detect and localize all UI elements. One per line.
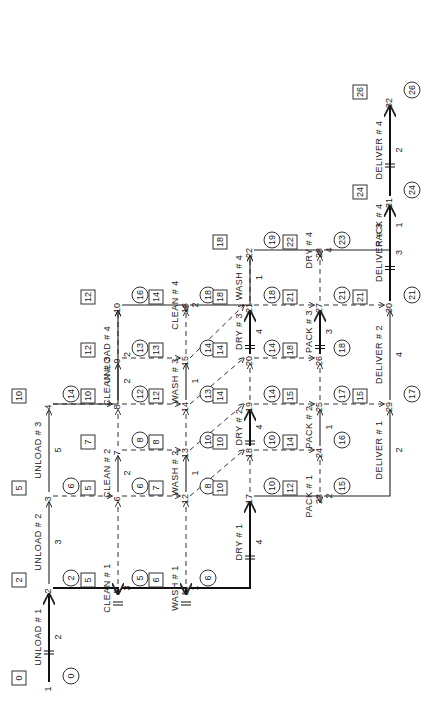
early-start-value: 2: [14, 577, 24, 582]
late-finish-value: 21: [407, 290, 417, 300]
activity-duration: 1: [394, 222, 404, 227]
early-start-value: 14: [215, 391, 225, 401]
late-finish-value: 5: [135, 575, 145, 580]
late-finish-value: 23: [337, 235, 347, 245]
late-finish-value: 14: [66, 389, 76, 399]
network-diagram: UNLOAD # 12UNLOAD # 23UNLOAD # 35UNLOAD …: [0, 0, 437, 704]
late-finish-value: 10: [203, 435, 213, 445]
late-finish-value: 15: [337, 481, 347, 491]
activity-label: DRY # 1: [234, 523, 244, 560]
late-finish-value: 8: [135, 437, 145, 442]
node-number: 6: [112, 496, 122, 501]
early-start-value: 18: [215, 237, 225, 247]
early-start-value: 13: [151, 345, 161, 355]
late-finish-value: 13: [203, 389, 213, 399]
late-finish-value: 6: [203, 575, 213, 580]
activity-label: DELIVER # 4: [374, 120, 384, 179]
node-number: 17: [244, 494, 254, 504]
activity-label: UNLOAD # 2: [33, 513, 43, 571]
late-finish-value: 6: [135, 483, 145, 488]
node-number: 25: [314, 402, 324, 412]
late-finish-value: 21: [337, 290, 347, 300]
node-number: 10: [112, 303, 122, 313]
late-finish-value: 14: [203, 343, 213, 353]
early-start-value: 12: [83, 345, 93, 355]
node-number: 30: [384, 303, 394, 313]
activity-label: CLEAN # 2: [102, 448, 112, 498]
late-finish-value: 16: [337, 435, 347, 445]
activity-duration: 5: [53, 447, 63, 452]
node-number: 8: [112, 404, 122, 409]
early-start-value: 5: [83, 577, 93, 582]
activity-duration: 2: [122, 470, 132, 475]
activity-label: CLEAN # 3: [102, 356, 112, 406]
node-number: 4: [43, 404, 53, 409]
early-start-value: 5: [83, 485, 93, 490]
activity-label: PACK # 2: [304, 406, 314, 449]
node-number: 29: [384, 402, 394, 412]
late-finish-value: 14: [267, 343, 277, 353]
early-start-value: 12: [285, 483, 295, 493]
early-start-value: 14: [285, 437, 295, 447]
node-number: 7: [112, 450, 122, 455]
activity-duration: 2: [122, 378, 132, 383]
early-start-value: 14: [215, 345, 225, 355]
early-start-value: 12: [83, 292, 93, 302]
activity-duration: 1: [190, 470, 200, 475]
activity-label: WASH # 4: [234, 255, 244, 301]
early-start-value: 14: [151, 292, 161, 302]
activity-duration: 4: [254, 329, 264, 334]
early-start-value: 22: [285, 237, 295, 247]
node-number: 14: [180, 402, 190, 412]
activity-duration: 3: [394, 250, 404, 255]
node-number: 5: [112, 588, 122, 593]
late-finish-value: 10: [267, 435, 277, 445]
node-number: 18: [244, 448, 254, 458]
early-start-value: 10: [215, 483, 225, 493]
late-finish-value: 17: [407, 389, 417, 399]
activity-duration: 1: [254, 275, 264, 280]
late-finish-value: 12: [135, 389, 145, 399]
late-finish-value: 16: [135, 290, 145, 300]
activity-label: WASH # 3: [170, 358, 180, 404]
activity-label: WASH # 2: [170, 450, 180, 496]
node-number: 21: [244, 303, 254, 313]
activity-label: DRY # 4: [304, 231, 314, 268]
activity-label: DELIVER # 2: [374, 325, 384, 384]
early-start-value: 5: [14, 485, 24, 490]
late-finish-value: 0: [66, 673, 76, 678]
activity-duration: 4: [254, 539, 264, 544]
activity-label: UNLOAD # 1: [33, 608, 43, 666]
late-finish-value: 6: [66, 483, 76, 488]
node-number: 32: [384, 98, 394, 108]
early-start-value: 24: [355, 187, 365, 197]
early-start-value: 7: [83, 439, 93, 444]
node-number: 26: [314, 356, 324, 366]
node-number: 28: [314, 248, 324, 258]
late-finish-value: 18: [267, 290, 277, 300]
early-start-value: 18: [285, 345, 295, 355]
node-number: 15: [180, 356, 190, 366]
activity-label: DRY # 3: [234, 313, 244, 350]
activity-label: CLEAN # 1: [102, 563, 112, 613]
activity-label: CLEAN # 4: [170, 280, 180, 330]
early-start-value: 10: [14, 391, 24, 401]
activity-duration: 2: [394, 147, 404, 152]
late-finish-value: 10: [267, 481, 277, 491]
activity-label: DELIVER # 1: [374, 420, 384, 479]
activity-duration: 4: [394, 352, 404, 357]
early-start-value: 26: [355, 87, 365, 97]
activity-duration: 1: [190, 378, 200, 383]
activity-label: PACK # 3: [304, 310, 314, 353]
late-finish-value: 14: [267, 389, 277, 399]
late-finish-value: 26: [407, 85, 417, 95]
early-start-value: 0: [14, 675, 24, 680]
early-start-value: 8: [151, 439, 161, 444]
node-number: 13: [180, 448, 190, 458]
activity-label: WASH # 1: [170, 565, 180, 611]
late-finish-value: 18: [337, 343, 347, 353]
early-start-value: 10: [83, 391, 93, 401]
early-start-value: 12: [151, 391, 161, 401]
node-number: 20: [244, 356, 254, 366]
activity-duration: 2: [394, 447, 404, 452]
